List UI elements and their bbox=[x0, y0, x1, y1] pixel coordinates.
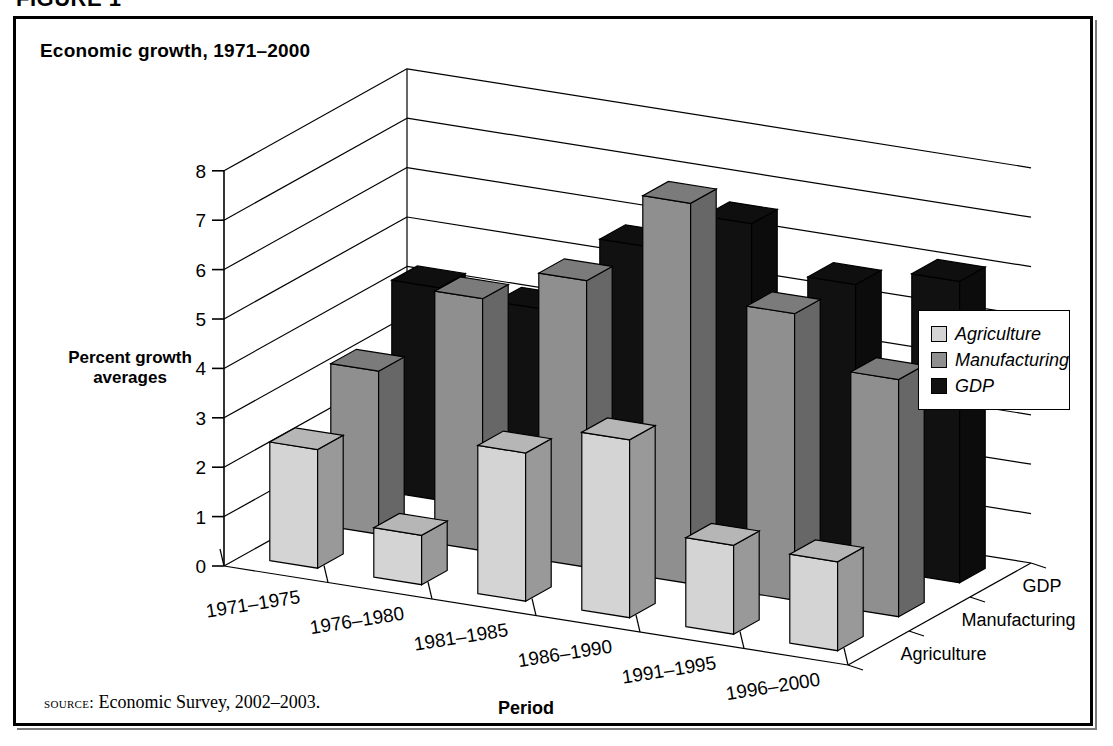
bars-layer bbox=[270, 181, 985, 650]
bar-agriculture-1981-1985-front-face bbox=[478, 445, 526, 601]
legend-label-gdp: GDP bbox=[955, 376, 994, 397]
x-axis-tick-label-3: 1986–1990 bbox=[516, 636, 613, 672]
chart-legend: Agriculture Manufacturing GDP bbox=[918, 310, 1070, 410]
gridline-left-wall-6 bbox=[224, 168, 407, 270]
depth-tick-2 bbox=[970, 597, 985, 602]
bar-agriculture-1996-2000 bbox=[790, 540, 863, 651]
depth-axis-label-agriculture: Agriculture bbox=[901, 644, 987, 664]
x-axis-title: Period bbox=[498, 698, 554, 718]
bar-agriculture-1991-1995-side-face bbox=[734, 531, 760, 634]
bar-agriculture-1991-1995 bbox=[686, 523, 759, 634]
bar-agriculture-1981-1985-side-face bbox=[526, 439, 552, 602]
bar-agriculture-1976-1980-front-face bbox=[374, 528, 422, 585]
legend-label-manufacturing: Manufacturing bbox=[955, 350, 1069, 371]
axis-layer bbox=[212, 171, 224, 566]
gridline-left-wall-5 bbox=[224, 217, 407, 319]
x-axis-tick-label-2: 1981–1985 bbox=[412, 619, 509, 655]
category-tick-4 bbox=[636, 615, 640, 632]
depth-axis-label-gdp: GDP bbox=[1023, 576, 1062, 596]
gridline-back-wall-8 bbox=[407, 69, 1031, 168]
bar-agriculture-1996-2000-front-face bbox=[790, 554, 838, 651]
x-axis-tick-label-5: 1996–2000 bbox=[724, 669, 821, 705]
depth-tick-0 bbox=[848, 665, 863, 670]
bar-agriculture-1981-1985 bbox=[478, 431, 551, 601]
legend-swatch-gdp bbox=[931, 378, 947, 394]
y-axis-tick-label-0: 0 bbox=[195, 556, 206, 577]
depth-tick-3 bbox=[1031, 563, 1046, 568]
bar-agriculture-1986-1990-side-face bbox=[630, 426, 656, 618]
gridline-left-wall-8 bbox=[224, 69, 407, 171]
gridline-left-wall-7 bbox=[224, 118, 407, 220]
category-tick-6 bbox=[844, 648, 848, 665]
legend-item-manufacturing[interactable]: Manufacturing bbox=[931, 347, 1059, 373]
legend-label-agriculture: Agriculture bbox=[955, 324, 1041, 345]
bar-manufacturing-1971-1975-side-face bbox=[379, 357, 405, 534]
bar-agriculture-1971-1975-front-face bbox=[270, 442, 318, 568]
x-axis-tick-label-4: 1991–1995 bbox=[620, 652, 717, 688]
category-tick-2 bbox=[428, 582, 432, 599]
gridline-back-wall-7 bbox=[407, 118, 1031, 217]
y-axis-tick-label-8: 8 bbox=[195, 161, 206, 182]
depth-tick-1 bbox=[909, 631, 924, 636]
x-axis-tick-label-0: 1971–1975 bbox=[204, 586, 301, 622]
bar-agriculture-1986-1990 bbox=[582, 418, 655, 618]
figure-container: FIGURE 1 Economic growth, 1971–2000 Perc… bbox=[0, 0, 1113, 746]
legend-item-agriculture[interactable]: Agriculture bbox=[931, 321, 1059, 347]
source-label: source: bbox=[44, 694, 94, 711]
legend-item-gdp[interactable]: GDP bbox=[931, 373, 1059, 399]
legend-swatch-manufacturing bbox=[931, 352, 947, 368]
category-tick-1 bbox=[324, 566, 328, 583]
y-axis-tick-label-7: 7 bbox=[195, 210, 206, 231]
bar-manufacturing-1976-1980-front-face bbox=[435, 291, 483, 551]
y-axis-tick-label-2: 2 bbox=[195, 457, 206, 478]
bar-agriculture-1991-1995-front-face bbox=[686, 538, 734, 635]
bar-agriculture-1971-1975-side-face bbox=[318, 435, 344, 568]
bar-agriculture-1971-1975 bbox=[270, 428, 343, 568]
y-axis-tick-label-6: 6 bbox=[195, 260, 206, 281]
y-axis-tick-label-1: 1 bbox=[195, 507, 206, 528]
y-axis-tick-label-4: 4 bbox=[195, 358, 206, 379]
category-tick-3 bbox=[532, 599, 536, 616]
y-axis-tick-label-5: 5 bbox=[195, 309, 206, 330]
source-note: source: Economic Survey, 2002–2003. bbox=[44, 692, 320, 713]
bar-agriculture-1976-1980 bbox=[374, 513, 447, 584]
category-tick-5 bbox=[740, 632, 744, 649]
bar-agriculture-1996-2000-side-face bbox=[838, 548, 864, 651]
depth-axis-label-manufacturing: Manufacturing bbox=[962, 610, 1076, 630]
legend-swatch-agriculture bbox=[931, 326, 947, 342]
source-text: Economic Survey, 2002–2003. bbox=[94, 692, 320, 712]
bar-agriculture-1986-1990-front-face bbox=[582, 432, 630, 617]
y-axis-tick-label-3: 3 bbox=[195, 408, 206, 429]
x-axis-tick-label-1: 1976–1980 bbox=[308, 603, 405, 639]
